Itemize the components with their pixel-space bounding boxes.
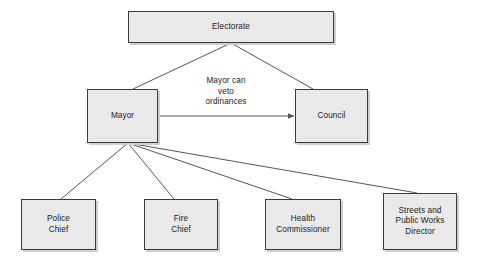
org-chart-diagram: ElectorateMayorCouncilPolice ChiefFire C… bbox=[0, 0, 480, 265]
node-fire-chief[interactable]: Fire Chief bbox=[144, 199, 218, 250]
node-label-council: Council bbox=[317, 111, 345, 122]
node-police-chief[interactable]: Police Chief bbox=[21, 199, 96, 250]
node-electorate[interactable]: Electorate bbox=[128, 11, 334, 43]
node-label-streets-public-works-director: Streets and Public Works Director bbox=[396, 206, 445, 238]
node-label-mayor: Mayor bbox=[111, 111, 134, 122]
node-label-electorate: Electorate bbox=[212, 22, 250, 33]
node-council[interactable]: Council bbox=[295, 89, 368, 143]
connector-mayor-to-fire-chief bbox=[128, 143, 174, 199]
connector-mayor-to-streets-director bbox=[128, 143, 417, 193]
connector-mayor-to-police-chief bbox=[61, 143, 128, 199]
node-label-fire-chief: Fire Chief bbox=[171, 214, 191, 235]
connector-mayor-to-health-commissioner bbox=[128, 143, 292, 199]
node-health-commissioner[interactable]: Health Commissioner bbox=[265, 199, 341, 250]
node-label-health-commissioner: Health Commissioner bbox=[276, 214, 330, 235]
node-streets-public-works-director[interactable]: Streets and Public Works Director bbox=[383, 193, 457, 250]
edge-label-veto-label: Mayor can veto ordinances bbox=[186, 76, 266, 108]
node-label-police-chief: Police Chief bbox=[47, 214, 70, 235]
node-mayor[interactable]: Mayor bbox=[87, 89, 158, 143]
